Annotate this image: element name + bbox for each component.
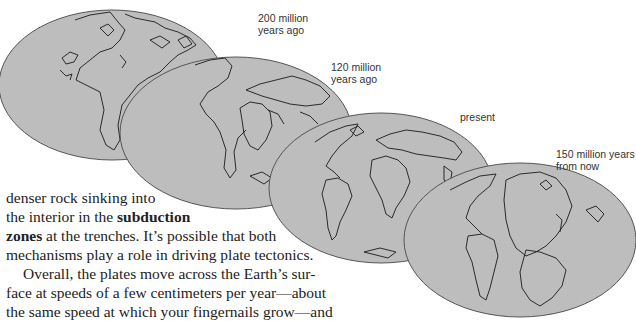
text-line-4: mechanisms play a role in driving plate … — [6, 245, 313, 264]
label-150-million-years-from-now: 150 million years from now — [556, 148, 635, 172]
label-120-million-years-ago: 120 million years ago — [331, 61, 381, 85]
text-line-3-rest: at the trenches. It’s possible that both — [42, 227, 276, 244]
text-line-7: the same speed at which your fingernails… — [6, 302, 333, 321]
text-line-6: face at speeds of a few centimeters per … — [6, 283, 326, 302]
text-line-2-start: the interior in the — [6, 208, 117, 225]
text-line-2: the interior in the subduction — [6, 207, 190, 226]
text-line-1: denser rock sinking into — [6, 188, 155, 207]
term-zones: zones — [6, 227, 42, 244]
label-present: present — [460, 111, 495, 123]
map-150-million-years-from-now — [404, 163, 636, 317]
text-line-5: Overall, the plates move across the Eart… — [23, 264, 315, 283]
plate-tectonics-figure-page: 200 million years ago 120 million years … — [0, 0, 636, 321]
text-line-3: zones at the trenches. It’s possible tha… — [6, 226, 276, 245]
label-200-million-years-ago: 200 million years ago — [258, 12, 308, 36]
term-subduction: subduction — [117, 208, 190, 225]
